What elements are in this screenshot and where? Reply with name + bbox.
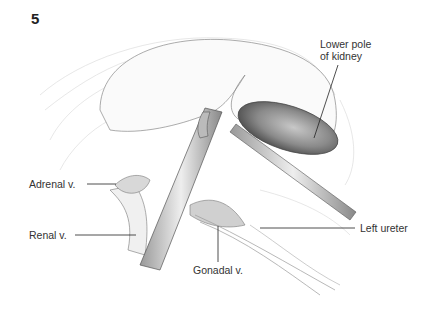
label-line-2: of kidney <box>320 50 371 62</box>
label-gonadal-vein: Gonadal v. <box>193 264 243 276</box>
label-lower-pole-of-kidney: Lower pole of kidney <box>320 38 371 62</box>
label-renal-vein: Renal v. <box>29 229 67 241</box>
label-left-ureter: Left ureter <box>360 222 408 234</box>
label-line-1: Lower pole <box>320 38 371 50</box>
label-adrenal-vein: Adrenal v. <box>29 178 76 190</box>
